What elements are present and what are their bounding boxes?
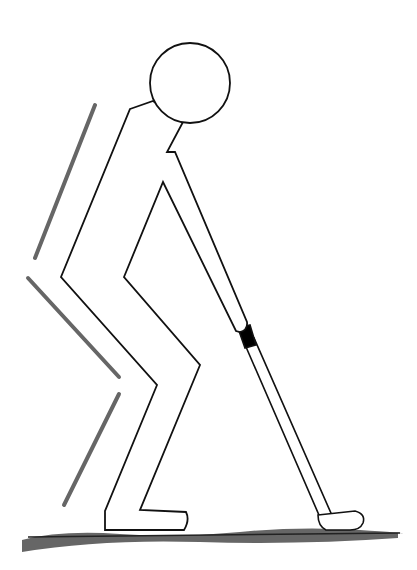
ground <box>22 528 404 552</box>
golfer-body <box>61 101 247 530</box>
golfer-head <box>150 43 230 123</box>
club-head <box>318 511 364 530</box>
golf-club <box>238 325 364 530</box>
golfer-illustration <box>0 0 417 570</box>
